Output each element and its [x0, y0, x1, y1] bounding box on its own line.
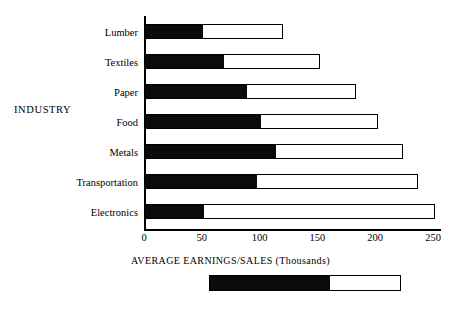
category-label-food: Food — [116, 116, 138, 127]
x-tick-50: 50 — [197, 232, 208, 243]
bar-segment-electronics — [145, 205, 204, 218]
x-axis-title-text: AVERAGE EARNINGS/SALES (Thousands) — [131, 255, 330, 266]
bar-total-food — [144, 114, 378, 129]
bar-total-metals — [144, 144, 403, 159]
plot-area: Lumber Textiles Paper Food Metals — [144, 16, 444, 230]
category-label-lumber: Lumber — [105, 26, 138, 37]
bar-chart: INDUSTRY Lumber Textiles Paper Food — [0, 0, 461, 309]
x-axis-title: AVERAGE EARNINGS/SALES (Thousands) — [0, 255, 461, 266]
bar-segment-metals — [145, 145, 276, 158]
bar-segment-textiles — [145, 55, 224, 68]
category-label-electronics: Electronics — [91, 206, 138, 217]
category-label-metals: Metals — [109, 146, 138, 157]
x-tick-0: 0 — [141, 232, 146, 243]
x-tick-100: 100 — [252, 232, 268, 243]
bar-segment-paper — [145, 85, 247, 98]
category-label-transportation: Transportation — [77, 176, 138, 187]
legend-bar — [209, 275, 401, 291]
legend-filled-segment — [210, 276, 330, 290]
x-tick-200: 200 — [367, 232, 383, 243]
bar-total-lumber — [144, 24, 283, 39]
bar-total-paper — [144, 84, 356, 99]
x-tick-250: 250 — [425, 232, 441, 243]
bar-total-electronics — [144, 204, 435, 219]
x-tick-150: 150 — [310, 232, 326, 243]
bar-segment-lumber — [145, 25, 203, 38]
category-label-textiles: Textiles — [105, 56, 138, 67]
bar-total-transportation — [144, 174, 418, 189]
bar-total-textiles — [144, 54, 320, 69]
y-axis-title: INDUSTRY — [14, 104, 71, 115]
category-label-paper: Paper — [114, 86, 138, 97]
bar-segment-food — [145, 115, 261, 128]
bar-segment-transportation — [145, 175, 257, 188]
